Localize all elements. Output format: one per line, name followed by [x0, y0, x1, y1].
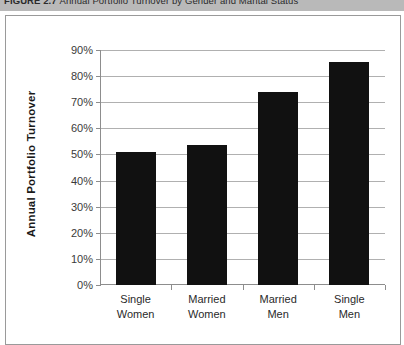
x-axis-tick: [171, 285, 172, 290]
x-axis-category-label: SingleMen: [314, 292, 385, 322]
bar: [187, 145, 227, 285]
bar-slot: [314, 50, 385, 285]
x-axis-category-label: MarriedMen: [243, 292, 314, 322]
y-axis-tick: [96, 285, 101, 286]
y-axis-tick-label: 10%: [71, 253, 93, 265]
y-axis-tick-label: 40%: [71, 175, 93, 187]
y-axis-tick-label: 50%: [71, 148, 93, 160]
x-axis-tick: [385, 285, 386, 290]
x-axis-category-label-line: Men: [243, 307, 314, 322]
x-axis-category-label-line: Married: [171, 292, 242, 307]
x-axis-category-label: MarriedWomen: [171, 292, 242, 322]
y-axis-title: Annual Portfolio Turnover: [25, 64, 37, 264]
bar-series: [100, 50, 385, 285]
x-axis-tick: [314, 285, 315, 290]
y-axis-tick-label: 20%: [71, 227, 93, 239]
x-axis-category-label-line: Women: [171, 307, 242, 322]
y-axis-tick-label: 0%: [77, 279, 93, 291]
bar: [258, 92, 298, 285]
y-axis-tick-label: 80%: [71, 70, 93, 82]
x-axis-tick: [243, 285, 244, 290]
y-axis-tick-label: 70%: [71, 96, 93, 108]
bar-slot: [243, 50, 314, 285]
bar-slot: [100, 50, 171, 285]
y-axis-tick-label: 60%: [71, 122, 93, 134]
x-axis-category-label-line: Women: [100, 307, 171, 322]
bar-slot: [171, 50, 242, 285]
y-axis-tick-label: 90%: [71, 44, 93, 56]
y-axis-tick-label: 30%: [71, 201, 93, 213]
x-axis-category-label-line: Married: [243, 292, 314, 307]
bar: [116, 152, 156, 285]
x-axis-category-label-line: Single: [100, 292, 171, 307]
bar: [329, 62, 369, 285]
x-axis-category-labels: SingleWomenMarriedWomenMarriedMenSingleM…: [100, 292, 385, 332]
y-axis-tick-labels: 0%10%20%30%40%50%60%70%80%90%: [40, 50, 93, 285]
x-axis-category-label-line: Men: [314, 307, 385, 322]
x-axis-category-label: SingleWomen: [100, 292, 171, 322]
x-axis-category-label-line: Single: [314, 292, 385, 307]
